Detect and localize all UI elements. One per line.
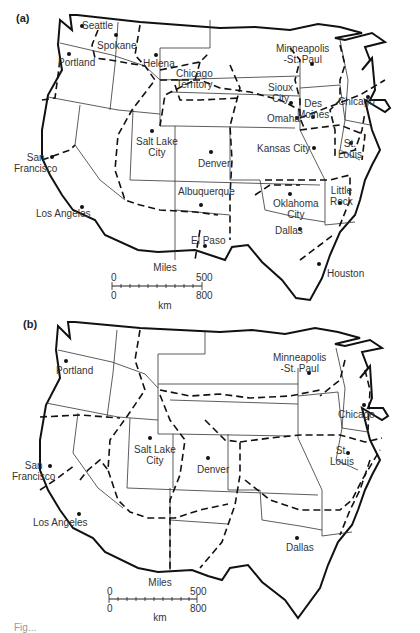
city-label: Helena xyxy=(143,58,175,69)
scale-km-min: 0 xyxy=(107,603,113,614)
city-label: Chicago xyxy=(338,409,375,420)
city-label: Houston xyxy=(327,268,364,279)
city-label: San Francisco xyxy=(14,152,57,174)
scale-km-max: 800 xyxy=(190,603,207,614)
city-label: Des Moines xyxy=(297,98,329,120)
scale-miles-min: 0 xyxy=(107,586,113,597)
map-panel-b: (b) PortlandMinneapolis -St. PaulChicago… xyxy=(0,300,420,632)
city-label: Chicago xyxy=(338,96,375,107)
scale-miles-max: 500 xyxy=(196,272,213,283)
city-label: Seattle xyxy=(82,20,113,31)
city-label: Albuquerque xyxy=(178,186,235,197)
city-label: El Paso xyxy=(191,235,225,246)
city-label: Spokane xyxy=(97,40,136,51)
city-label: Los Angeles xyxy=(33,517,88,528)
city-label: Portland xyxy=(58,57,95,68)
city-label: Salt Lake City xyxy=(136,136,178,158)
city-marker xyxy=(362,403,366,407)
city-marker xyxy=(209,150,213,154)
city-label: St. Louis xyxy=(338,138,362,160)
city-marker xyxy=(206,456,210,460)
panel-label: (b) xyxy=(23,318,37,330)
city-label: Oklahoma City xyxy=(273,198,319,220)
city-marker xyxy=(312,146,316,150)
city-marker xyxy=(317,262,321,266)
city-label: Dallas xyxy=(286,542,314,553)
figure-caption: Fig... xyxy=(14,622,36,633)
city-label: Omaha xyxy=(267,113,300,124)
city-marker xyxy=(114,33,118,37)
city-label: Denver xyxy=(197,464,229,475)
panel-label: (a) xyxy=(16,12,29,24)
city-marker xyxy=(199,203,203,207)
city-marker xyxy=(154,53,158,57)
city-marker xyxy=(295,536,299,540)
city-label: Kansas City xyxy=(257,143,310,154)
city-label: Little Rock xyxy=(330,185,353,207)
city-marker xyxy=(148,436,152,440)
city-label: Denver xyxy=(198,158,230,169)
city-marker xyxy=(77,512,81,516)
city-marker xyxy=(288,192,292,196)
scale-miles-max: 500 xyxy=(190,586,207,597)
city-label: Chicago Territory xyxy=(176,68,213,90)
city-marker xyxy=(67,52,71,56)
scale-title: Miles xyxy=(140,577,180,588)
scale-title: Miles xyxy=(145,262,185,273)
city-label: Portland xyxy=(56,365,93,376)
city-marker xyxy=(64,359,68,363)
city-label: Minneapolis -St. Paul xyxy=(273,352,326,374)
scale-unit-km: km xyxy=(145,612,175,623)
city-marker xyxy=(150,129,154,133)
map-panel-a: (a) SeattleSpokanePortlandHelenaChicago … xyxy=(0,0,420,315)
city-label: Dallas xyxy=(275,225,303,236)
city-label: Los Angeles xyxy=(36,208,91,219)
city-label: San Francisco xyxy=(12,460,55,482)
city-label: St. Louis xyxy=(330,445,354,467)
scale-miles-min: 0 xyxy=(111,272,117,283)
city-label: Sioux City xyxy=(268,82,293,104)
city-label: Salt Lake City xyxy=(134,444,176,466)
city-label: Minneapolis -St. Paul xyxy=(276,43,329,65)
